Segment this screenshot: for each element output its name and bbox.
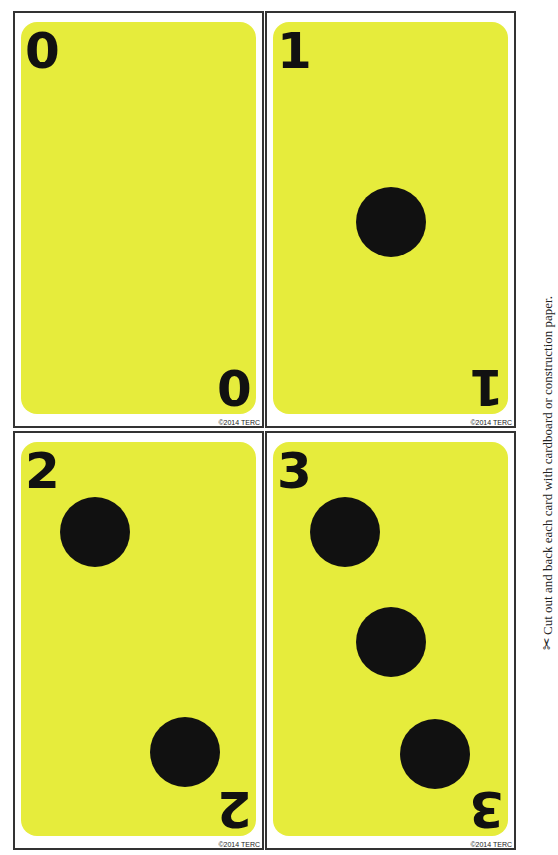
card-0: 0 0 ©2014 TERC bbox=[13, 11, 264, 428]
card-number-top: 1 bbox=[277, 26, 312, 76]
scissors-icon: ✂ bbox=[539, 637, 555, 650]
card-number-top: 2 bbox=[25, 446, 60, 496]
card-number-bottom: 1 bbox=[469, 362, 504, 412]
dot bbox=[400, 719, 470, 789]
instruction-text: Cut out and back each card with cardboar… bbox=[540, 296, 555, 635]
card-number-top: 3 bbox=[277, 446, 312, 496]
card-face: 0 0 bbox=[21, 22, 256, 414]
card-number-top: 0 bbox=[25, 26, 60, 76]
dot bbox=[150, 717, 220, 787]
card-1: 1 1 ©2014 TERC bbox=[265, 11, 516, 428]
card-number-bottom: 0 bbox=[217, 362, 252, 412]
dot bbox=[310, 497, 380, 567]
copyright: ©2014 TERC bbox=[470, 841, 512, 848]
card-2: 2 2 ©2014 TERC bbox=[13, 431, 264, 850]
card-number-bottom: 2 bbox=[217, 784, 252, 834]
card-3: 3 3 ©2014 TERC bbox=[265, 431, 516, 850]
dot bbox=[60, 497, 130, 567]
card-face: 3 3 bbox=[273, 442, 508, 836]
card-face: 1 1 bbox=[273, 22, 508, 414]
dot bbox=[356, 187, 426, 257]
card-number-bottom: 3 bbox=[469, 784, 504, 834]
copyright: ©2014 TERC bbox=[218, 419, 260, 426]
copyright: ©2014 TERC bbox=[470, 419, 512, 426]
dot bbox=[356, 607, 426, 677]
card-face: 2 2 bbox=[21, 442, 256, 836]
cut-instruction: ✂Cut out and back each card with cardboa… bbox=[538, 296, 556, 650]
copyright: ©2014 TERC bbox=[218, 841, 260, 848]
